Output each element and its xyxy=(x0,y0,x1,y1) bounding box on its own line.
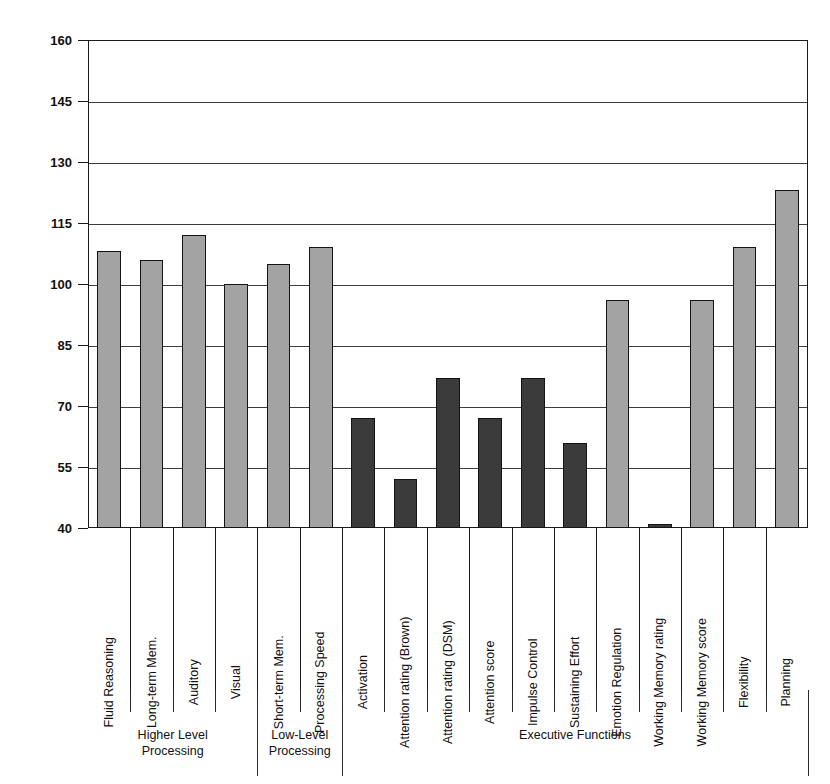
group-tick xyxy=(554,690,555,712)
y-tick-70 xyxy=(78,406,88,407)
x-tick-label: Working Memory score xyxy=(681,530,723,688)
group-label-line1: Low-Level xyxy=(257,728,342,744)
bar xyxy=(351,418,375,528)
group-label: Low-LevelProcessing xyxy=(257,728,342,759)
group-tick xyxy=(469,690,470,712)
bar xyxy=(309,247,333,528)
y-tick-label-130: 130 xyxy=(28,156,72,169)
bar-chart-figure: Standard Scores 40557085100115130145160 … xyxy=(0,0,830,784)
y-tick-160 xyxy=(78,40,88,41)
group-label-line1: Executive Functions xyxy=(342,728,808,744)
group-tick xyxy=(681,690,682,712)
y-tick-label-70: 70 xyxy=(28,400,72,413)
group-tick xyxy=(300,690,301,712)
y-tick-85 xyxy=(78,345,88,346)
x-tick-label: Planning xyxy=(766,530,808,688)
group-label-line2: Processing xyxy=(88,744,257,760)
bar xyxy=(478,418,502,528)
x-tick-label: Visual xyxy=(215,530,257,688)
group-tick xyxy=(130,690,131,712)
group-label-line2: Processing xyxy=(257,744,342,760)
bar xyxy=(394,479,418,528)
x-tick-label: Attention rating (DSM) xyxy=(427,530,469,688)
bar xyxy=(267,264,291,528)
bar xyxy=(182,235,206,528)
x-tick-label: Long-term Mem. xyxy=(130,530,172,688)
group-label: Executive Functions xyxy=(342,728,808,744)
y-tick-label-100: 100 xyxy=(28,278,72,291)
bar xyxy=(606,300,630,528)
group-boundary xyxy=(808,690,809,776)
category-label-band: Fluid ReasoningLong-term Mem.AuditoryVis… xyxy=(88,528,808,690)
bar xyxy=(733,247,757,528)
bar xyxy=(224,284,248,528)
group-label-band: Higher LevelProcessingLow-LevelProcessin… xyxy=(88,690,808,776)
x-tick-label: Activation xyxy=(342,530,384,688)
bar xyxy=(436,378,460,528)
x-tick-label: Sustaining Effort xyxy=(554,530,596,688)
group-tick xyxy=(215,690,216,712)
y-tick-label-115: 115 xyxy=(28,217,72,230)
bar xyxy=(775,190,799,528)
group-tick xyxy=(766,690,767,712)
bar xyxy=(140,260,164,528)
group-tick xyxy=(173,690,174,712)
x-tick-label: Short-term Mem. xyxy=(257,530,299,688)
group-label-line1: Higher Level xyxy=(88,728,257,744)
y-tick-label-160: 160 xyxy=(28,34,72,47)
group-tick xyxy=(723,690,724,712)
x-tick-label: Impulse Control xyxy=(512,530,554,688)
y-tick-145 xyxy=(78,101,88,102)
group-tick xyxy=(427,690,428,712)
x-tick-label: Processing Speed xyxy=(300,530,342,688)
y-tick-label-55: 55 xyxy=(28,461,72,474)
group-tick xyxy=(639,690,640,712)
y-tick-115 xyxy=(78,223,88,224)
group-label: Higher LevelProcessing xyxy=(88,728,257,759)
y-tick-130 xyxy=(78,162,88,163)
y-tick-label-145: 145 xyxy=(28,95,72,108)
group-tick xyxy=(384,690,385,712)
x-tick-label: Attention rating (Brown) xyxy=(384,530,426,688)
bars-layer xyxy=(88,40,808,528)
bar xyxy=(563,443,587,528)
y-tick-label-40: 40 xyxy=(28,522,72,535)
x-tick-label: Working Memory rating xyxy=(639,530,681,688)
bar xyxy=(97,251,121,528)
bar xyxy=(521,378,545,528)
y-tick-40 xyxy=(78,528,88,529)
y-tick-label-85: 85 xyxy=(28,339,72,352)
group-tick xyxy=(596,690,597,712)
x-tick-label: Auditory xyxy=(173,530,215,688)
bar xyxy=(690,300,714,528)
y-tick-100 xyxy=(78,284,88,285)
y-tick-55 xyxy=(78,467,88,468)
x-tick-label: Attention score xyxy=(469,530,511,688)
group-tick xyxy=(512,690,513,712)
x-tick-label: Flexibility xyxy=(723,530,765,688)
x-tick-label: Emotion Regulation xyxy=(596,530,638,688)
x-tick-label: Fluid Reasoning xyxy=(88,530,130,688)
